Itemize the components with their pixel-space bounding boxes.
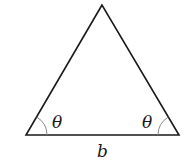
base-label: b	[97, 141, 108, 161]
triangle	[26, 5, 179, 135]
left-angle-label: θ	[52, 112, 62, 132]
triangle-diagram: θ θ b	[0, 0, 188, 162]
left-angle-arc	[37, 117, 47, 135]
right-angle-arc	[158, 117, 168, 135]
right-angle-label: θ	[142, 112, 152, 132]
